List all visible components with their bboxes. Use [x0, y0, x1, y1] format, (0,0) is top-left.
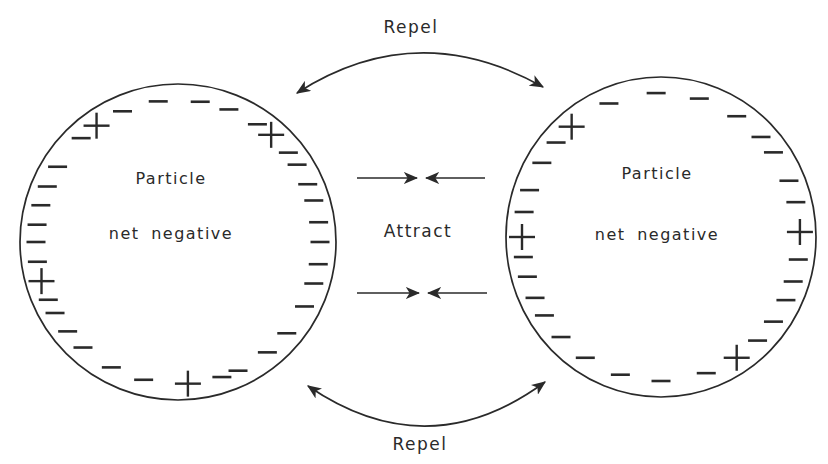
attract-group: Attract [357, 178, 487, 293]
repel-bottom-group: Repel [308, 382, 545, 454]
repel-bottom-label: Repel [393, 434, 448, 454]
repel-top-label: Repel [384, 17, 439, 37]
repel-bottom-arrow [308, 382, 545, 426]
repel-top-arrow [297, 53, 543, 93]
repel-top-group: Repel [297, 17, 543, 93]
left-particle-subtitle: net negative [109, 224, 233, 243]
attract-label: Attract [384, 221, 453, 241]
right-particle-title: Particle [621, 164, 692, 183]
particle-interaction-diagram: Repel Attract Repel Particlenet negative… [0, 0, 828, 464]
left-particle: Particlenet negative [20, 84, 336, 400]
left-particle-title: Particle [135, 169, 206, 188]
right-particle-subtitle: net negative [595, 225, 719, 244]
right-particle: Particlenet negative [506, 77, 816, 397]
